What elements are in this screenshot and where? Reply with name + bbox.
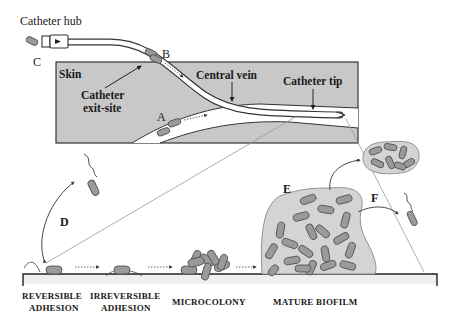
bacterium-c	[25, 36, 38, 47]
catheter-hub-label: Catheter hub	[20, 14, 82, 28]
stage-caption-reversible-2: ADHESION	[29, 303, 79, 313]
exit-site-label-2: exit-site	[83, 102, 121, 114]
mature-biofilm	[261, 188, 376, 278]
exit-site-label-1: Catheter	[81, 89, 124, 101]
stage-caption-irreversible-2: ADHESION	[101, 303, 151, 313]
catheter-surface	[23, 274, 437, 286]
stage-caption-mature-biofilm: MATURE BIOFILM	[273, 297, 358, 307]
flagellum-f	[404, 193, 413, 211]
catheter-biofilm-diagram: Catheter hub C B A Skin Catheter exit-si…	[0, 0, 461, 314]
dispersal-arrow-f	[358, 207, 398, 214]
stage-f-label: F	[371, 191, 378, 205]
flagellum-d	[84, 154, 97, 177]
catheter-tip-label: Catheter tip	[283, 75, 343, 88]
detach-arrow-d	[42, 182, 74, 260]
stage-caption-microcolony: MICROCOLONY	[172, 297, 246, 307]
stage-d-label: D	[60, 215, 69, 229]
skin-label: Skin	[59, 68, 82, 80]
stage-e-label: E	[283, 182, 291, 196]
bacterium-reversible	[46, 266, 62, 274]
route-a-label: A	[157, 110, 166, 124]
bacterium-irreversible	[114, 266, 130, 274]
central-vein-label: Central vein	[196, 69, 258, 81]
catheter-hub-icon	[42, 35, 68, 48]
stage-caption-reversible-1: REVERSIBLE	[22, 291, 82, 301]
dispersed-bacterium-f	[406, 210, 418, 226]
planktonic-bacterium-d	[87, 179, 100, 196]
flagellum-reversible	[24, 262, 40, 272]
route-b-label: B	[162, 47, 170, 61]
route-c-label: C	[33, 55, 41, 69]
detach-arrow-e	[330, 160, 360, 190]
detached-cluster	[363, 141, 419, 173]
stage-caption-irreversible-1: IRREVERSIBLE	[90, 291, 160, 301]
